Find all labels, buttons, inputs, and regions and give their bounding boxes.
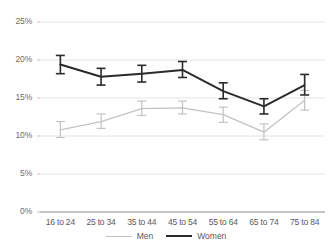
legend-line-men-icon <box>106 236 132 237</box>
y-axis-tick-label: 15% <box>2 92 32 102</box>
chart-canvas <box>0 0 332 249</box>
y-axis-tick-label: 20% <box>2 54 32 64</box>
y-axis-tick-label: 5% <box>2 168 32 178</box>
x-axis-tick-label: 35 to 44 <box>121 217 162 227</box>
legend-item-men: Men <box>106 231 154 241</box>
legend-label-men: Men <box>137 231 154 241</box>
x-axis-tick-label: 45 to 54 <box>162 217 203 227</box>
plot-area <box>0 0 332 249</box>
legend-item-women: Women <box>166 231 226 241</box>
legend-line-women-icon <box>166 235 192 237</box>
chart-legend: Men Women <box>0 231 332 241</box>
legend-label-women: Women <box>197 231 226 241</box>
y-axis-tick-label: 25% <box>2 16 32 26</box>
x-axis-tick-label: 65 to 74 <box>244 217 285 227</box>
line-chart: 0%5%10%15%20%25% 16 to 2425 to 3435 to 4… <box>0 0 332 249</box>
x-axis-tick-label: 75 to 84 <box>284 217 325 227</box>
x-axis-tick-label: 16 to 24 <box>40 217 81 227</box>
y-axis-tick-label: 0% <box>2 206 32 216</box>
y-axis-tick-label: 10% <box>2 130 32 140</box>
x-axis-tick-label: 25 to 34 <box>81 217 122 227</box>
x-axis-tick-label: 55 to 64 <box>203 217 244 227</box>
